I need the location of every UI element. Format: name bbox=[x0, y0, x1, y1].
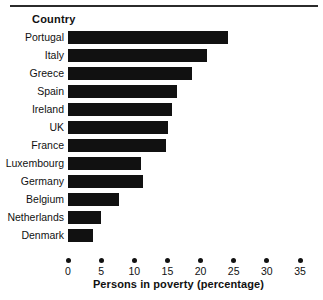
bar-row: Italy bbox=[0, 48, 323, 66]
bar-category-label: UK bbox=[0, 121, 64, 134]
bar bbox=[68, 103, 172, 116]
bar-category-label: Denmark bbox=[0, 229, 64, 242]
bar bbox=[68, 175, 143, 188]
value-axis: Persons in poverty (percentage) 05101520… bbox=[0, 252, 323, 300]
bar-row: Portugal bbox=[0, 30, 323, 48]
bar-category-label: Luxembourg bbox=[0, 157, 64, 170]
x-axis-tick-marker bbox=[298, 258, 303, 263]
bar-category-label: Spain bbox=[0, 85, 64, 98]
bar-row: Ireland bbox=[0, 102, 323, 120]
x-axis-tick-label: 5 bbox=[98, 265, 104, 277]
bar bbox=[68, 139, 166, 152]
bar-row: Greece bbox=[0, 66, 323, 84]
x-axis-tick-label: 35 bbox=[294, 265, 306, 277]
bar-category-label: Belgium bbox=[0, 193, 64, 206]
x-axis-tick-label: 30 bbox=[261, 265, 273, 277]
bar-row: UK bbox=[0, 120, 323, 138]
x-axis-tick-label: 20 bbox=[195, 265, 207, 277]
bar-category-label: Portugal bbox=[0, 31, 64, 44]
top-divider-rule bbox=[10, 5, 318, 7]
bar bbox=[68, 121, 168, 134]
x-axis-tick-marker bbox=[198, 258, 203, 263]
bar-category-label: Italy bbox=[0, 49, 64, 62]
bar-category-label: Greece bbox=[0, 67, 64, 80]
bar-row: Germany bbox=[0, 174, 323, 192]
bar-row: France bbox=[0, 138, 323, 156]
bar-row: Denmark bbox=[0, 228, 323, 246]
x-axis-tick-label: 25 bbox=[228, 265, 240, 277]
bar bbox=[68, 31, 228, 44]
x-axis-title: Persons in poverty (percentage) bbox=[59, 278, 264, 290]
bar bbox=[68, 67, 192, 80]
plot-area: PortugalItalyGreeceSpainIrelandUKFranceL… bbox=[0, 30, 323, 252]
bar bbox=[68, 157, 141, 170]
bar-row: Belgium bbox=[0, 192, 323, 210]
x-axis-tick-marker bbox=[66, 258, 71, 263]
bar-category-label: Netherlands bbox=[0, 211, 64, 224]
bar bbox=[68, 193, 119, 206]
x-axis-tick-label: 0 bbox=[65, 265, 71, 277]
bar-row: Netherlands bbox=[0, 210, 323, 228]
x-axis-tick-marker bbox=[99, 258, 104, 263]
category-axis-title: Country bbox=[32, 13, 76, 25]
x-axis-tick-label: 10 bbox=[128, 265, 140, 277]
x-axis-tick-label: 15 bbox=[162, 265, 174, 277]
bar bbox=[68, 229, 93, 242]
bar bbox=[68, 211, 101, 224]
x-axis-tick-marker bbox=[165, 258, 170, 263]
bar bbox=[68, 49, 207, 62]
x-axis-title-wrap: Persons in poverty (percentage) bbox=[0, 278, 323, 290]
x-axis-tick-marker bbox=[231, 258, 236, 263]
bar-row: Luxembourg bbox=[0, 156, 323, 174]
bar-category-label: Germany bbox=[0, 175, 64, 188]
x-axis-tick-marker bbox=[132, 258, 137, 263]
bar bbox=[68, 85, 177, 98]
bar-row: Spain bbox=[0, 84, 323, 102]
bar-category-label: Ireland bbox=[0, 103, 64, 116]
bar-category-label: France bbox=[0, 139, 64, 152]
poverty-bar-chart: Country PortugalItalyGreeceSpainIrelandU… bbox=[0, 0, 323, 300]
x-axis-tick-marker bbox=[264, 258, 269, 263]
